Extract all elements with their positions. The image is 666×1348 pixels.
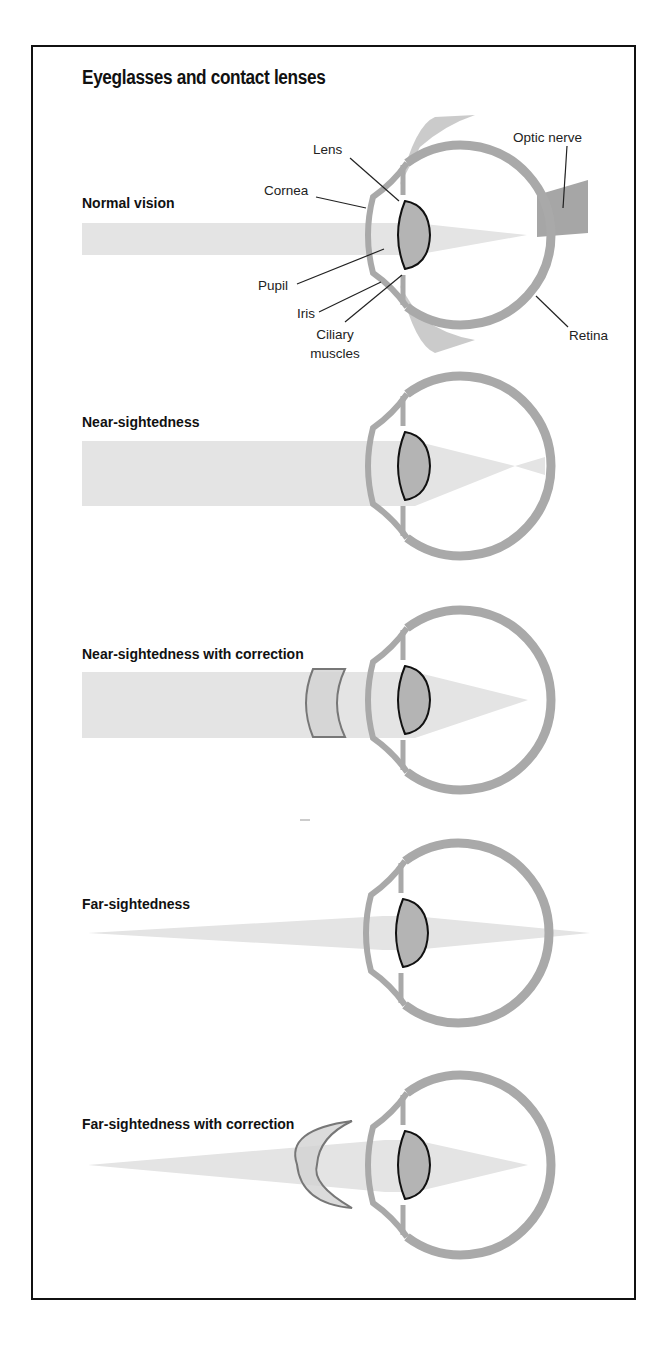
- anatomy-label: Ciliary: [316, 327, 354, 342]
- leader-line: [345, 275, 402, 322]
- panel-near: Near-sightedness: [82, 376, 551, 556]
- panel-far: Far-sightedness: [82, 843, 590, 1023]
- anatomy-label: Optic nerve: [513, 130, 582, 145]
- anatomy-label: Lens: [313, 142, 343, 157]
- leader-line: [316, 197, 366, 208]
- condition-label: Far-sightedness: [82, 896, 190, 912]
- leader-line: [319, 282, 381, 312]
- condition-label: Normal vision: [82, 195, 175, 211]
- condition-label: Far-sightedness with correction: [82, 1116, 294, 1132]
- condition-label: Near-sightedness with correction: [82, 646, 304, 662]
- anatomy-label: Pupil: [258, 278, 288, 293]
- diverging-beam: [515, 457, 545, 475]
- eye-diagram: Normal visionNear-sightednessNear-sighte…: [0, 0, 666, 1348]
- eye-lens: [398, 201, 430, 269]
- eye-lens: [396, 899, 428, 967]
- panel-far-corrected: Far-sightedness with correction: [82, 1075, 551, 1255]
- light-beam: [88, 916, 590, 950]
- panel-near-corrected: Near-sightedness with correction: [82, 610, 551, 790]
- anatomy-label: Iris: [297, 306, 315, 321]
- leader-line: [536, 296, 568, 327]
- light-beam: [82, 441, 515, 506]
- condition-label: Near-sightedness: [82, 414, 200, 430]
- anatomy-label: muscles: [310, 346, 360, 361]
- anatomy-label: Cornea: [264, 183, 309, 198]
- anatomy-label: Retina: [569, 328, 609, 343]
- light-beam: [82, 672, 528, 738]
- light-beam: [82, 223, 527, 255]
